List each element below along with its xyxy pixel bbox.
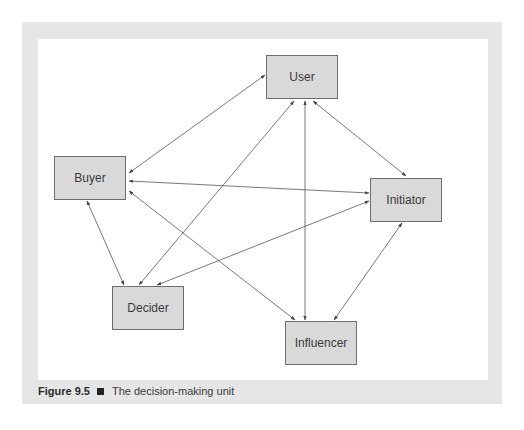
black-square-icon bbox=[97, 388, 104, 395]
figure-caption: Figure 9.5 The decision-making unit bbox=[38, 385, 234, 397]
node-initiator-label: Initiator bbox=[386, 193, 425, 207]
node-decider-label: Decider bbox=[127, 301, 168, 315]
node-buyer-label: Buyer bbox=[74, 171, 105, 185]
node-influencer-label: Influencer bbox=[295, 336, 348, 350]
node-user-label: User bbox=[289, 70, 314, 84]
node-user: User bbox=[266, 55, 338, 99]
node-decider: Decider bbox=[112, 286, 184, 330]
node-buyer: Buyer bbox=[54, 156, 126, 200]
figure-number: Figure 9.5 bbox=[38, 385, 90, 397]
node-influencer: Influencer bbox=[285, 321, 357, 365]
figure-caption-text: The decision-making unit bbox=[112, 385, 234, 397]
node-initiator: Initiator bbox=[370, 178, 442, 222]
